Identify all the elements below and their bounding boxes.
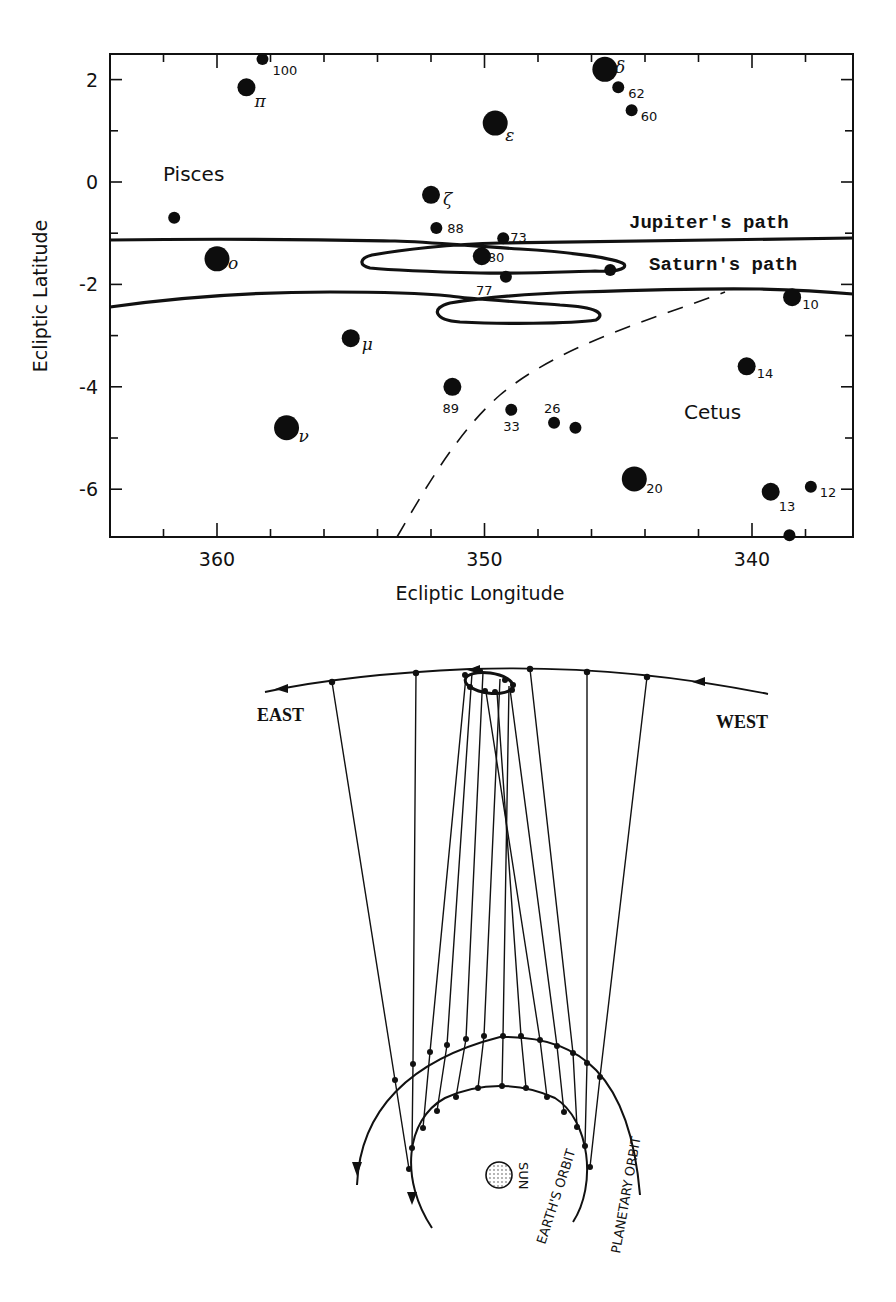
- ecliptic-chart: 36035034020-2-4-6 100πδ6260εζ8873ο807710…: [0, 0, 896, 620]
- sky-position-dot: [527, 666, 533, 672]
- star-marker: [505, 404, 517, 416]
- earth-orbit-line: [411, 1086, 587, 1228]
- star-label: 13: [779, 499, 796, 514]
- earth-position-dot: [544, 1094, 550, 1100]
- orbits: [352, 1033, 640, 1228]
- x-tick-label: 350: [466, 548, 502, 570]
- star-marker: [762, 483, 780, 501]
- star-marker: [569, 422, 581, 434]
- planet-position-dot: [481, 1033, 487, 1039]
- earth-position-dot: [453, 1094, 459, 1100]
- star-label: ο: [228, 253, 238, 273]
- sightline: [456, 672, 483, 1097]
- star-labels: 100πδ6260εζ8873ο807710μ14893326ν201312: [228, 57, 836, 513]
- retrograde-loop: [464, 670, 514, 696]
- star-label: 62: [628, 86, 645, 101]
- y-tick-label: -2: [79, 273, 98, 295]
- sightline: [486, 692, 547, 1097]
- sightline: [423, 676, 466, 1128]
- star-marker: [626, 104, 638, 116]
- direction-arrow-icon: [275, 684, 288, 693]
- sky-position-dot: [644, 674, 650, 680]
- earth-position-dot: [499, 1083, 505, 1089]
- planet-position-dot: [392, 1077, 398, 1083]
- star-marker: [738, 357, 756, 375]
- sightlines: [332, 669, 647, 1169]
- earth-position-dot: [434, 1108, 440, 1114]
- earth-position-dot: [523, 1085, 529, 1091]
- sky-position-dot: [584, 669, 590, 675]
- star-marker: [430, 222, 442, 234]
- earth-position-dot: [409, 1145, 415, 1151]
- earth-position-dot: [475, 1085, 481, 1091]
- star-marker: [342, 329, 360, 347]
- star-marker: [548, 417, 560, 429]
- y-tick-label: -4: [79, 376, 98, 398]
- sightline: [502, 686, 509, 1086]
- planet-position-dot: [500, 1033, 506, 1039]
- loop-dot: [492, 689, 498, 695]
- star-marker: [497, 232, 509, 244]
- direction-arrow-icon: [467, 665, 480, 674]
- sightline: [437, 673, 472, 1111]
- star-label: 100: [272, 63, 297, 78]
- earth-position-dot: [561, 1109, 567, 1115]
- axis-tick-labels: 36035034020-2-4-6: [79, 69, 770, 570]
- sun-icon: [486, 1162, 512, 1188]
- loop-dot: [509, 687, 515, 693]
- star-label: 89: [442, 401, 459, 416]
- sky-position-dot: [474, 667, 480, 673]
- star-marker: [783, 529, 795, 541]
- earth-position-dot: [420, 1125, 426, 1131]
- y-tick-label: 2: [86, 69, 98, 91]
- star-label: 10: [802, 297, 819, 312]
- saturn-path-label: Saturn's path: [649, 254, 797, 276]
- star-label: ζ: [443, 189, 454, 209]
- jupiter-path-label: Jupiter's path: [629, 212, 789, 234]
- star-marker: [483, 111, 508, 136]
- star-label: ν: [299, 426, 309, 446]
- sky-position-dot: [413, 670, 419, 676]
- star-marker: [443, 378, 461, 396]
- planet-position-dot: [427, 1049, 433, 1055]
- planet-position-dot: [584, 1060, 590, 1066]
- star-label: 88: [447, 221, 464, 236]
- star-label: 77: [476, 283, 493, 298]
- earth-position-dot: [587, 1164, 593, 1170]
- earth-position-dot: [582, 1143, 588, 1149]
- star-label: 60: [641, 109, 658, 124]
- planet-position-dot: [410, 1061, 416, 1067]
- sky-position-dot: [329, 679, 335, 685]
- star-marker: [500, 271, 512, 283]
- y-tick-label: 0: [86, 171, 98, 193]
- sightline: [510, 689, 564, 1112]
- star-label: μ: [362, 334, 373, 354]
- sightline: [478, 679, 500, 1088]
- star-marker: [256, 53, 268, 65]
- east-label: EAST: [257, 705, 304, 725]
- star-label: 12: [820, 485, 837, 500]
- star-marker: [205, 246, 230, 271]
- planet-position-dot: [463, 1036, 469, 1042]
- star-marker: [622, 466, 647, 491]
- star-label: 80: [488, 250, 505, 265]
- star-label: δ: [615, 57, 625, 77]
- sightline: [497, 692, 526, 1088]
- star-marker: [422, 186, 440, 204]
- star-marker: [612, 81, 624, 93]
- star-label: 73: [510, 230, 527, 245]
- planet-position-dot: [444, 1042, 450, 1048]
- sightline: [332, 682, 409, 1169]
- y-axis-label: Ecliptic Latitude: [29, 220, 51, 372]
- star-label: 26: [544, 401, 561, 416]
- sightline: [590, 677, 647, 1167]
- constellation-label-pisces: Pisces: [163, 162, 224, 186]
- star-marker: [805, 481, 817, 493]
- star-label: ε: [505, 125, 514, 145]
- west-label: WEST: [716, 712, 768, 732]
- star-label: π: [253, 91, 266, 111]
- loop-dot: [467, 684, 473, 690]
- y-tick-label: -6: [79, 478, 98, 500]
- star-marker: [783, 288, 801, 306]
- loop-dot: [462, 672, 468, 678]
